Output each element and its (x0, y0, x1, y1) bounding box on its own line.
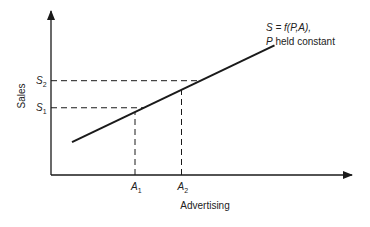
annotation-line-1: S = f(P,A), (266, 22, 311, 33)
annotation-rest: held constant (273, 36, 335, 47)
x-axis-label: Advertising (180, 200, 229, 211)
y-tick-label-1: S1 (36, 102, 47, 115)
x-tick-label-1: A1 (130, 181, 142, 194)
x-tick-label-2: A2 (177, 181, 189, 194)
chart-svg: A1A2S1S2 Sales Advertising S = f(P,A), P… (0, 0, 370, 227)
sales-function-line (72, 45, 275, 142)
y-tick-label-2: S2 (36, 75, 47, 88)
y-axis-label: Sales (16, 83, 27, 108)
function-annotation: S = f(P,A), (266, 22, 311, 33)
annotation-line-2: P held constant (266, 36, 335, 47)
